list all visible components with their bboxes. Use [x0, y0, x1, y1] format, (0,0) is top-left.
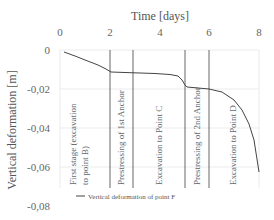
x-axis-title: Time [days] [131, 9, 189, 23]
legend-label: Vertical deformation of point F [88, 193, 175, 201]
y-tick-labels: 0 -0,02 -0,04 -0,06 -0,08 [27, 44, 50, 212]
phase-label-excavation-d: Excavation to Point D [228, 105, 238, 185]
y-tick: -0,06 [27, 161, 50, 173]
legend: Vertical deformation of point F [76, 193, 175, 201]
x-tick: 4 [157, 26, 163, 38]
phase-label-excavation-c: Excavation to Point C [154, 106, 164, 185]
y-tick: 0 [45, 44, 51, 56]
y-tick: -0,02 [27, 83, 50, 95]
y-tick: -0,08 [27, 200, 50, 212]
phase-labels: First stage (excavation to point B) Pres… [68, 87, 238, 185]
phase-label-first-stage: First stage (excavation [68, 103, 78, 185]
y-tick: -0,04 [27, 122, 50, 134]
x-tick: 2 [107, 26, 113, 38]
x-tick: 0 [57, 26, 63, 38]
x-tick: 8 [256, 26, 262, 38]
phase-label-prestress-1: Prestressing of 1st Anchor [116, 90, 126, 185]
deformation-chart: Time [days] 0 2 4 6 8 0 -0,02 -0,04 -0,0… [0, 0, 274, 220]
x-tick: 6 [206, 26, 212, 38]
phase-label-prestress-2: Prestressing of 2nd Anchor [192, 87, 202, 185]
y-axis-title: Vertical deformation [m] [5, 70, 19, 189]
x-tick-labels: 0 2 4 6 8 [57, 26, 262, 38]
phase-label-first-stage-cont: to point B) [80, 146, 90, 185]
